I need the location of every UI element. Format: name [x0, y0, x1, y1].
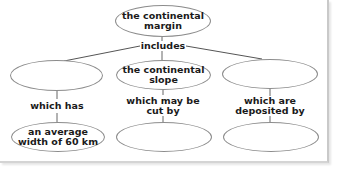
- detail-text-left: an average width of 60 km: [18, 127, 98, 147]
- root-concept-text: the continental margin: [122, 11, 204, 31]
- concept-text-middle: the continental slope: [123, 65, 205, 85]
- link-label-which-are-deposited-by: which are deposited by: [228, 96, 312, 116]
- root-link-label: includes: [140, 41, 186, 51]
- detail-node-right-blank[interactable]: [223, 122, 319, 152]
- link-label-which-has: which has: [22, 101, 92, 111]
- detail-node-average-width: an average width of 60 km: [11, 122, 105, 152]
- root-concept-node: the continental margin: [115, 5, 211, 37]
- concept-node-right-blank[interactable]: [222, 59, 318, 89]
- concept-node-continental-slope: the continental slope: [116, 60, 211, 90]
- concept-node-left-blank[interactable]: [10, 60, 103, 91]
- link-label-which-may-be-cut-by: which may be cut by: [123, 96, 203, 116]
- detail-node-middle-blank[interactable]: [116, 122, 212, 152]
